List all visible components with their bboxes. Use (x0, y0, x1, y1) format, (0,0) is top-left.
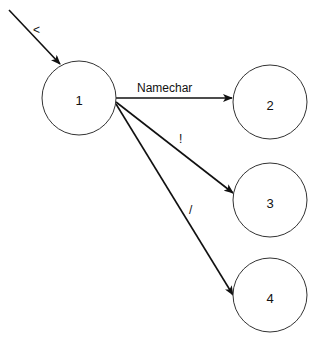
state-label-2: 2 (266, 98, 273, 113)
edge-1-to-4: / (116, 104, 233, 295)
edge-1-to-2: Namechar (116, 81, 232, 98)
edge-label-exclaim: ! (179, 132, 182, 146)
edge-start-to-1: < (9, 10, 60, 64)
edge-label-lt: < (33, 23, 40, 37)
state-node-3: 3 (233, 163, 307, 237)
state-label-3: 3 (266, 196, 273, 211)
state-label-4: 4 (266, 291, 273, 306)
edge-label-namechar: Namechar (137, 81, 192, 95)
edge-label-slash: / (189, 203, 193, 217)
state-label-1: 1 (75, 93, 82, 108)
state-node-2: 2 (233, 65, 307, 139)
edge-1-to-3: ! (116, 102, 233, 193)
state-node-4: 4 (233, 258, 307, 332)
state-diagram: < Namechar ! / 1 2 3 4 (0, 0, 319, 344)
state-node-1: 1 (42, 61, 116, 135)
